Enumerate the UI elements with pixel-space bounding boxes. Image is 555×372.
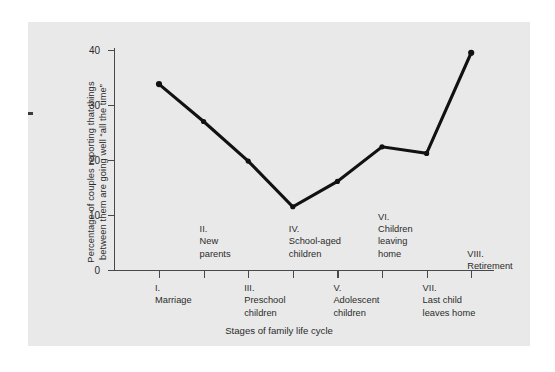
data-point-marker — [246, 159, 251, 164]
data-point-marker — [201, 119, 206, 124]
data-series — [28, 22, 530, 346]
data-point-marker — [379, 144, 384, 149]
data-point-marker — [156, 81, 162, 87]
plot-area: 010203040 I. MarriageII. New parentsIII.… — [28, 22, 530, 346]
data-point-marker — [290, 204, 295, 209]
data-point-marker — [468, 50, 474, 56]
data-point-marker — [335, 179, 340, 184]
series-line — [159, 53, 471, 207]
figure-panel: Percentage of couples reporting that thi… — [28, 22, 530, 346]
x-axis-title: Stages of family life cycle — [28, 325, 530, 336]
data-point-marker — [424, 151, 429, 156]
